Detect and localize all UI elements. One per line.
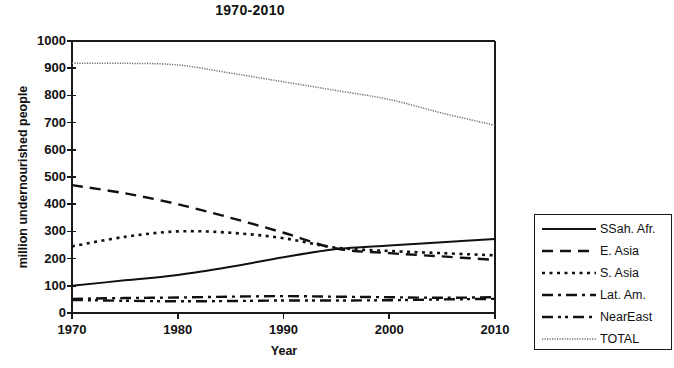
series-line-total	[72, 63, 495, 125]
legend-line-swatch	[540, 332, 598, 346]
legend-label: TOTAL	[598, 332, 639, 346]
axis-tick-marks	[67, 41, 495, 319]
legend-label: Lat. Am.	[598, 288, 646, 302]
chart-figure: 1970-2010 million undernourished people …	[0, 0, 674, 368]
legend-label: E. Asia	[598, 244, 639, 258]
legend-line-swatch	[540, 266, 598, 280]
legend-item-s-asia[interactable]: S. Asia	[535, 262, 671, 284]
data-series-group	[72, 63, 495, 301]
legend-line-swatch	[540, 244, 598, 258]
legend-label: S. Asia	[598, 266, 639, 280]
legend-item-e-asia[interactable]: E. Asia	[535, 240, 671, 262]
legend-line-swatch	[540, 310, 598, 324]
legend-item-lat-am[interactable]: Lat. Am.	[535, 284, 671, 306]
legend-item-total[interactable]: TOTAL	[535, 328, 671, 350]
legend-item-neareast[interactable]: NearEast	[535, 306, 671, 328]
series-line-e-asia	[72, 185, 495, 260]
chart-legend: SSah. Afr.E. AsiaS. AsiaLat. Am.NearEast…	[534, 214, 672, 350]
legend-label: SSah. Afr.	[598, 222, 656, 236]
legend-label: NearEast	[598, 310, 652, 324]
legend-line-swatch	[540, 222, 598, 236]
series-line-ssah-afr	[72, 239, 495, 286]
series-line-neareast	[72, 299, 495, 301]
legend-item-ssah-afr[interactable]: SSah. Afr.	[535, 218, 671, 240]
legend-line-swatch	[540, 288, 598, 302]
